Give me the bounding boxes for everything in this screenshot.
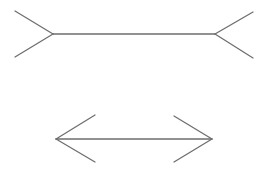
- fin-line: [15, 34, 53, 57]
- fin-line: [56, 139, 95, 162]
- fin-line: [215, 12, 253, 34]
- fin-line: [56, 115, 95, 139]
- fin-line: [15, 11, 53, 34]
- figures-group: [15, 11, 253, 162]
- fin-line: [215, 34, 253, 58]
- fin-line: [174, 139, 212, 162]
- diagram-svg: [0, 0, 268, 191]
- fins-in-figure: [56, 115, 212, 162]
- fin-line: [174, 116, 212, 139]
- muller-lyer-diagram: [0, 0, 268, 191]
- fins-out-figure: [15, 11, 253, 58]
